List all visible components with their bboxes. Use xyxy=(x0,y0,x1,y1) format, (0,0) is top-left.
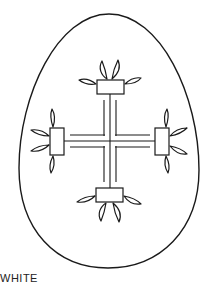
egg-coloring-illustration xyxy=(0,0,210,282)
right-holly-box xyxy=(155,109,187,173)
top-holly-box xyxy=(79,60,141,94)
bottom-holly-box xyxy=(77,188,141,222)
left-holly-box xyxy=(31,109,64,173)
cross xyxy=(64,92,155,188)
caption-label: WHITE xyxy=(0,272,38,282)
